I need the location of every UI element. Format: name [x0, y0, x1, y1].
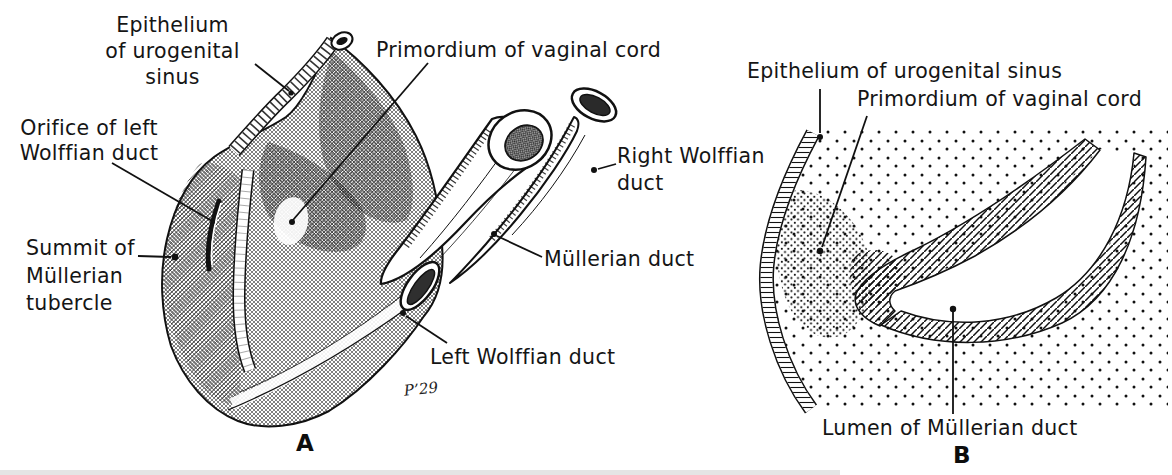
- panel-b-illustration: [765, 126, 1168, 410]
- label-right-wolffian-duct: Right Wolffian duct: [617, 143, 765, 197]
- tubercle-shading: [164, 163, 243, 404]
- label-primordium-of-vaginal-cord-b: Primordium of vaginal cord: [857, 86, 1142, 112]
- label-primordium-of-vaginal-cord-a: Primordium of vaginal cord: [376, 37, 661, 63]
- label-epithelium-of-urogenital-sinus-a: Epithelium of urogenital sinus: [95, 12, 250, 90]
- label-left-wolffian-duct: Left Wolffian duct: [430, 344, 615, 370]
- label-epithelium-of-urogenital-sinus-b: Epithelium of urogenital sinus: [747, 58, 1062, 84]
- artist-signature: P’29: [403, 378, 439, 399]
- anatomical-figure: Epithelium of urogenital sinus Primordiu…: [0, 0, 1172, 475]
- label-orifice-of-left-wolffian-duct: Orifice of left Wolffian duct: [5, 116, 173, 165]
- label-summit-of-mullerian-tubercle: Summit of Müllerian tubercle: [26, 235, 135, 318]
- label-lumen-of-mullerian-duct: Lumen of Müllerian duct: [822, 415, 1078, 441]
- panel-letter-b: B: [953, 442, 971, 468]
- panel-letter-a: A: [296, 430, 314, 456]
- scan-edge-artifact: [0, 470, 840, 475]
- label-mullerian-duct: Müllerian duct: [544, 246, 694, 272]
